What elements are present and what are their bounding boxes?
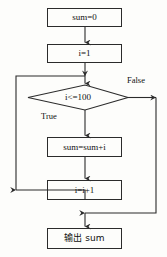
flowchart-canvas: [0, 0, 167, 257]
node-box-accumulate: [48, 138, 122, 157]
flowchart-diagram: sum=0 i=1 i<=100 sum=sum+i i=i+1 输出 sum …: [0, 0, 167, 257]
node-box-output: [48, 229, 122, 249]
node-diamond-condition: [28, 85, 128, 110]
node-box-init-i: [48, 45, 122, 63]
node-box-init-sum: [48, 9, 122, 27]
